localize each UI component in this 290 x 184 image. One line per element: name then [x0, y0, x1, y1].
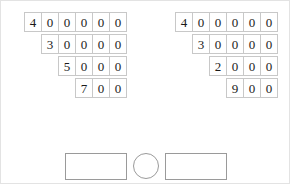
- digit-cell[interactable]: 9: [226, 78, 244, 98]
- digit-cell[interactable]: 0: [226, 12, 244, 32]
- number-row: 3 0 0 0 0: [13, 34, 127, 54]
- left-answer-box[interactable]: [65, 153, 127, 180]
- right-number-group: 4 0 0 0 0 0 3 0 0 0 0 2 0 0 0 9 0 0: [164, 12, 278, 100]
- digit-cell[interactable]: 0: [243, 56, 261, 76]
- digit-cell[interactable]: 0: [92, 78, 110, 98]
- number-row: 9 0 0: [164, 78, 278, 98]
- digit-cell[interactable]: 3: [41, 34, 59, 54]
- digit-cell[interactable]: 0: [58, 34, 76, 54]
- digit-cell[interactable]: 5: [58, 56, 76, 76]
- digit-cell[interactable]: 0: [243, 78, 261, 98]
- answer-area: [1, 149, 290, 183]
- number-row: 4 0 0 0 0 0: [164, 12, 278, 32]
- digit-cell[interactable]: 4: [24, 12, 42, 32]
- digit-cell[interactable]: 0: [92, 34, 110, 54]
- digit-cell[interactable]: 0: [75, 56, 93, 76]
- digit-cell[interactable]: 0: [109, 56, 127, 76]
- digit-cell[interactable]: 0: [209, 12, 227, 32]
- digit-cell[interactable]: 0: [260, 34, 278, 54]
- digit-cell[interactable]: 0: [243, 12, 261, 32]
- number-row: 2 0 0 0: [164, 56, 278, 76]
- number-row: 5 0 0 0: [13, 56, 127, 76]
- digit-cell[interactable]: 0: [92, 56, 110, 76]
- digit-cell[interactable]: 0: [209, 34, 227, 54]
- digit-cell[interactable]: 0: [92, 12, 110, 32]
- digit-cell[interactable]: 0: [260, 78, 278, 98]
- left-number-group: 4 0 0 0 0 0 3 0 0 0 0 5 0 0 0 7 0 0: [13, 12, 127, 100]
- number-row: 7 0 0: [13, 78, 127, 98]
- digit-cell[interactable]: 3: [192, 34, 210, 54]
- digit-cell[interactable]: 0: [58, 12, 76, 32]
- digit-cell[interactable]: 0: [260, 12, 278, 32]
- digit-cell[interactable]: 0: [243, 34, 261, 54]
- digit-cell[interactable]: 0: [75, 34, 93, 54]
- digit-cell[interactable]: 2: [209, 56, 227, 76]
- digit-cell[interactable]: 0: [109, 34, 127, 54]
- operator-circle[interactable]: [133, 153, 159, 179]
- digit-cell[interactable]: 0: [226, 56, 244, 76]
- number-row: 3 0 0 0 0: [164, 34, 278, 54]
- worksheet-page: 4 0 0 0 0 0 3 0 0 0 0 5 0 0 0 7 0 0 4: [0, 0, 290, 184]
- right-answer-box[interactable]: [165, 153, 227, 180]
- digit-cell[interactable]: 0: [41, 12, 59, 32]
- number-row: 4 0 0 0 0 0: [13, 12, 127, 32]
- digit-cell[interactable]: 0: [226, 34, 244, 54]
- digit-cell[interactable]: 7: [75, 78, 93, 98]
- digit-cell[interactable]: 0: [75, 12, 93, 32]
- digit-cell[interactable]: 0: [192, 12, 210, 32]
- digit-cell[interactable]: 4: [175, 12, 193, 32]
- digit-cell[interactable]: 0: [109, 78, 127, 98]
- digit-cell[interactable]: 0: [109, 12, 127, 32]
- digit-cell[interactable]: 0: [260, 56, 278, 76]
